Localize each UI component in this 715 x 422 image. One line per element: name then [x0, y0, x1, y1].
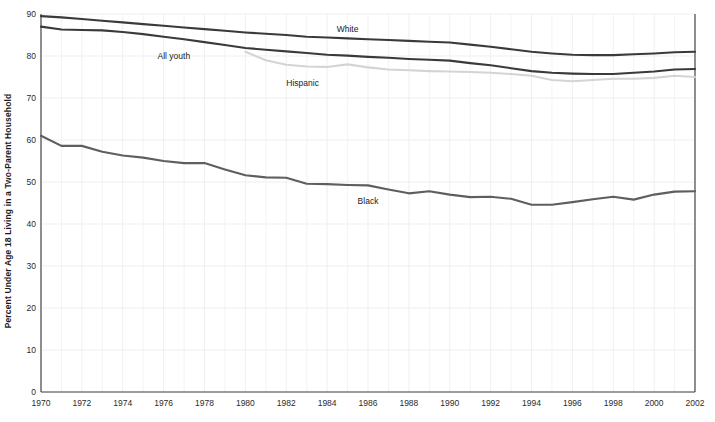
x-tick-label: 2000: [645, 398, 664, 408]
series-label-white: White: [337, 24, 359, 34]
x-tick-label: 1992: [481, 398, 500, 408]
series-label-hispanic: Hispanic: [286, 78, 319, 88]
chart-container: Percent Under Age 18 Living in a Two-Par…: [0, 0, 715, 422]
y-tick-label: 0: [31, 387, 36, 397]
y-tick-label: 30: [27, 261, 37, 271]
x-tick-label: 2002: [686, 398, 705, 408]
x-axis-tick-labels: 1970197219741976197819801982198419861988…: [32, 398, 705, 408]
x-tick-label: 1972: [72, 398, 91, 408]
x-tick-label: 1986: [359, 398, 378, 408]
series-label-all-youth: All youth: [158, 51, 191, 61]
x-tick-label: 1996: [563, 398, 582, 408]
x-tick-label: 1998: [604, 398, 623, 408]
x-tick-label: 1988: [399, 398, 418, 408]
series-annotations: WhiteAll youthHispanicBlack: [158, 24, 380, 206]
y-tick-label: 70: [27, 93, 37, 103]
x-tick-label: 1974: [113, 398, 132, 408]
y-tick-label: 50: [27, 177, 37, 187]
x-tick-label: 1980: [236, 398, 255, 408]
y-axis-tick-labels: 0102030405060708090: [27, 9, 37, 397]
x-tick-label: 1990: [440, 398, 459, 408]
y-tick-label: 20: [27, 303, 37, 313]
x-tick-label: 1976: [154, 398, 173, 408]
series-label-black: Black: [358, 196, 380, 206]
y-tick-label: 10: [27, 345, 37, 355]
x-tick-label: 1970: [32, 398, 51, 408]
y-tick-label: 40: [27, 219, 37, 229]
x-tick-label: 1984: [318, 398, 337, 408]
x-tick-label: 1982: [277, 398, 296, 408]
y-tick-label: 80: [27, 51, 37, 61]
x-tick-label: 1978: [195, 398, 214, 408]
line-chart-plot: 0102030405060708090 19701972197419761978…: [0, 0, 715, 422]
y-tick-label: 90: [27, 9, 37, 19]
y-tick-label: 60: [27, 135, 37, 145]
x-tick-label: 1994: [522, 398, 541, 408]
